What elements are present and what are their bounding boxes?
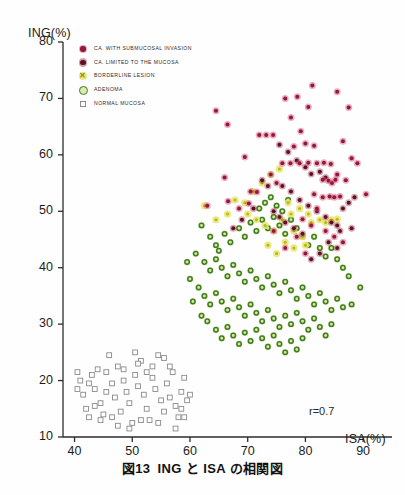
data-point xyxy=(344,178,348,182)
data-point xyxy=(110,381,115,386)
data-point xyxy=(173,404,178,409)
data-point xyxy=(127,401,132,406)
data-point xyxy=(333,178,337,182)
data-point xyxy=(223,175,227,179)
data-point xyxy=(115,423,120,428)
legend-item-label: BORDERLINE LESION xyxy=(94,73,155,78)
data-point xyxy=(324,221,327,224)
data-point xyxy=(234,199,237,202)
data-point xyxy=(95,367,100,372)
data-point xyxy=(260,178,264,182)
data-point xyxy=(150,375,155,380)
x-tick-label: 60 xyxy=(177,444,203,458)
data-point xyxy=(182,415,187,420)
y-tick-label: 20 xyxy=(27,373,53,387)
data-point xyxy=(318,252,322,256)
data-point xyxy=(335,173,339,177)
data-point xyxy=(101,412,106,417)
data-point xyxy=(139,418,144,423)
caption-text: ING と ISA の相関図 xyxy=(157,461,283,476)
caption-number: 図13 xyxy=(122,461,151,476)
data-point xyxy=(98,418,103,423)
data-point xyxy=(264,133,268,137)
data-point xyxy=(318,218,321,221)
data-point xyxy=(164,381,169,386)
data-point xyxy=(127,426,132,431)
y-tick-label: 50 xyxy=(27,203,53,217)
data-point xyxy=(107,353,112,358)
data-point xyxy=(298,207,301,210)
data-point xyxy=(272,229,276,233)
data-point xyxy=(341,206,345,210)
data-point xyxy=(321,178,325,182)
legend-item-label: ADENOMA xyxy=(94,87,123,92)
data-point xyxy=(341,139,345,143)
x-tick-label: 50 xyxy=(119,444,145,458)
data-point xyxy=(312,144,316,148)
data-point xyxy=(179,389,184,394)
data-point xyxy=(304,244,307,247)
data-point xyxy=(167,364,172,369)
data-point xyxy=(156,420,161,425)
data-point xyxy=(298,161,302,165)
data-point xyxy=(292,144,296,148)
data-point xyxy=(335,90,339,94)
legend-item: CA. WITH SUBMUCOSAL INVASION xyxy=(78,42,248,56)
data-point xyxy=(246,213,249,216)
data-point xyxy=(226,122,230,126)
data-point xyxy=(121,367,126,372)
data-point xyxy=(309,172,313,176)
data-point xyxy=(136,361,141,366)
data-point xyxy=(292,246,295,249)
data-point xyxy=(255,190,259,194)
data-point xyxy=(318,170,322,174)
data-point xyxy=(264,224,267,227)
data-point xyxy=(185,398,190,403)
x-tick-label: 70 xyxy=(235,444,261,458)
data-point xyxy=(75,387,80,392)
data-point xyxy=(182,375,187,380)
data-point xyxy=(335,223,339,227)
data-point xyxy=(306,105,310,109)
data-points-layer xyxy=(75,82,369,431)
data-point xyxy=(247,201,251,205)
y-tick-label: 40 xyxy=(27,260,53,274)
data-point xyxy=(275,181,279,185)
data-point xyxy=(347,105,351,109)
data-point xyxy=(338,229,342,233)
data-point xyxy=(255,218,258,221)
data-point xyxy=(332,195,336,199)
data-point xyxy=(118,409,123,414)
data-point xyxy=(87,415,92,420)
legend-item: ADENOMA xyxy=(78,83,248,97)
data-point xyxy=(324,229,328,233)
data-point xyxy=(153,387,158,392)
data-point xyxy=(284,241,287,244)
data-point xyxy=(240,218,244,222)
data-point xyxy=(295,95,299,99)
figure-caption: 図13ING と ISA の相関図 xyxy=(0,458,405,477)
data-point xyxy=(133,350,138,355)
data-point xyxy=(113,395,118,400)
data-point xyxy=(355,161,359,165)
data-point xyxy=(124,389,129,394)
data-point xyxy=(277,143,281,147)
series-normal-mucosa xyxy=(75,350,192,431)
correlation-annotation: r=0.7 xyxy=(309,405,334,417)
data-point xyxy=(249,190,253,194)
data-point xyxy=(306,204,310,208)
data-point xyxy=(295,235,299,239)
data-point xyxy=(84,406,89,411)
data-point xyxy=(271,133,275,137)
data-point xyxy=(205,204,209,208)
legend: CA. WITH SUBMUCOSAL INVASIONCA. LIMITED … xyxy=(78,42,248,110)
data-point xyxy=(237,206,241,210)
data-point xyxy=(289,213,292,216)
legend-item: NORMAL MUCOSA xyxy=(78,96,248,110)
data-point xyxy=(306,161,310,165)
data-point xyxy=(341,240,345,244)
data-point xyxy=(321,195,325,199)
data-point xyxy=(136,384,141,389)
data-point xyxy=(81,392,86,397)
y-tick-label: 30 xyxy=(27,316,53,330)
